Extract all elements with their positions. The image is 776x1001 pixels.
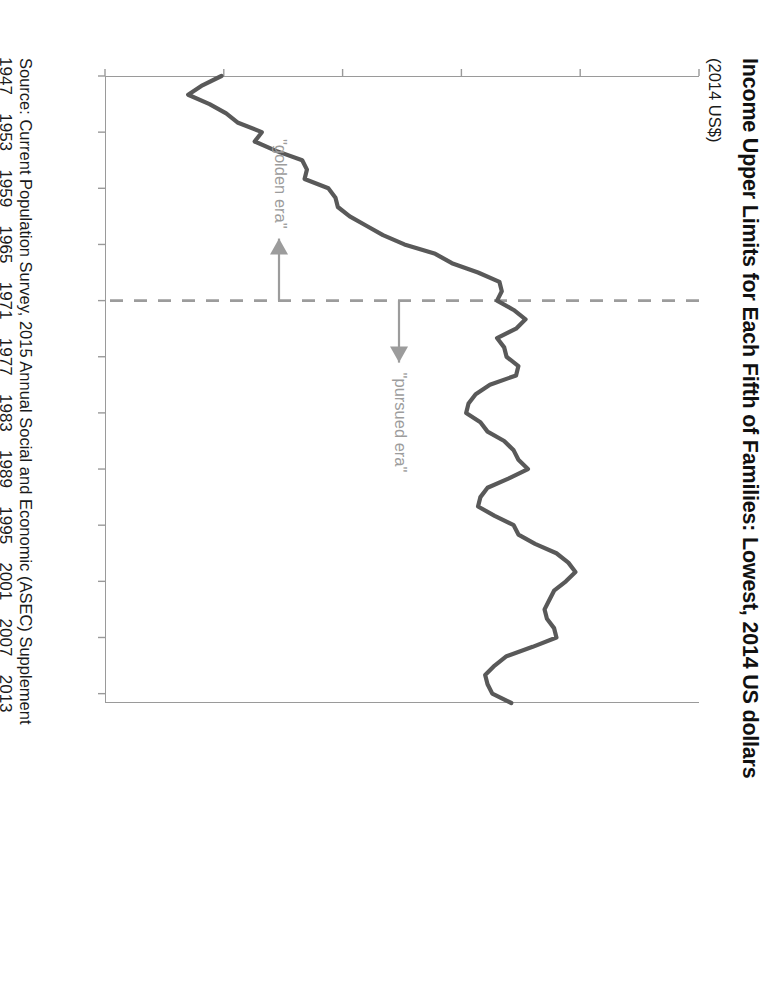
x-tick-label: 2013: [0, 675, 15, 713]
x-tick-label: 1965: [0, 226, 15, 264]
x-tick-label: 1983: [0, 394, 15, 432]
chart-subtitle: (2014 US$): [705, 58, 724, 142]
x-tick-label: 2001: [0, 562, 15, 600]
data-series-line: [188, 76, 575, 703]
figure-canvas: Income Upper Limits for Each Fifth of Fa…: [0, 0, 776, 1001]
pursued-era-annotation: "pursued era": [391, 373, 410, 473]
x-tick-label: 1989: [0, 450, 15, 488]
golden-era-annotation: "golden era": [271, 139, 290, 229]
x-tick-label: 1947: [0, 57, 15, 95]
source-note: Source: Current Population Survey, 2015 …: [16, 58, 35, 725]
x-tick-label: 2007: [0, 619, 15, 657]
x-tick-label: 1953: [0, 113, 15, 151]
x-axis-ticks: [98, 76, 105, 694]
y-axis-ticks: [105, 69, 699, 76]
chart-title: Income Upper Limits for Each Fifth of Fa…: [737, 58, 762, 779]
x-tick-label: 1971: [0, 282, 15, 320]
x-tick-label: 1995: [0, 506, 15, 544]
plot-area: 1000015000200002500030000350001947195319…: [105, 76, 699, 703]
x-tick-label: 1959: [0, 169, 15, 207]
x-tick-label: 1977: [0, 338, 15, 376]
